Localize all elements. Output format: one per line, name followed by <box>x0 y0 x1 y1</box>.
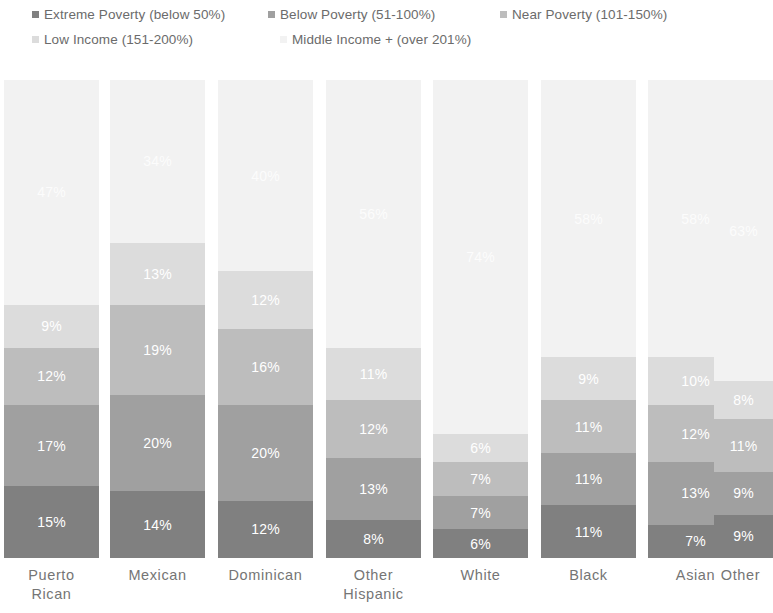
legend-item-below-poverty[interactable]: Below Poverty (51-100%) <box>268 8 435 22</box>
bar-segment-label: 56% <box>359 207 388 221</box>
x-axis-tick-label: Dominican <box>212 566 319 585</box>
bar-segment[interactable]: 20% <box>218 405 313 501</box>
bar-segment[interactable]: 11% <box>541 505 636 558</box>
legend-item-label: Extreme Poverty (below 50%) <box>44 8 225 22</box>
bar-other-hispanic: 56%11%12%13%8% <box>326 80 421 558</box>
bar-segment[interactable]: 12% <box>326 400 421 457</box>
x-axis-tick-line: Rican <box>0 585 103 604</box>
bar-segment[interactable]: 13% <box>110 243 205 305</box>
bar-segment[interactable]: 9% <box>714 472 773 515</box>
chart-legend: Extreme Poverty (below 50%) Below Povert… <box>0 0 773 62</box>
bar-segment[interactable]: 11% <box>714 419 773 472</box>
bar-segment-label: 20% <box>143 436 172 450</box>
bar-segment-label: 11% <box>730 439 758 453</box>
bar-segment-label: 6% <box>470 441 491 455</box>
bar-segment-label: 63% <box>729 224 758 238</box>
x-axis-tick-label: Other <box>708 566 773 585</box>
bar-segment[interactable]: 56% <box>326 80 421 348</box>
bar-segment-label: 7% <box>470 472 491 486</box>
x-axis-tick-line: Other <box>320 566 427 585</box>
bar-segment[interactable]: 47% <box>4 80 99 305</box>
bar-segment-label: 19% <box>143 343 172 357</box>
bar-segment[interactable]: 15% <box>4 486 99 558</box>
bar-segment[interactable]: 11% <box>541 453 636 506</box>
bar-segment-label: 9% <box>41 319 62 333</box>
x-axis: PuertoRicanMexicanDominicanOtherHispanic… <box>0 562 773 613</box>
bar-segment-label: 20% <box>251 446 280 460</box>
bar-segment[interactable]: 12% <box>218 271 313 328</box>
x-axis-tick-line: Hispanic <box>320 585 427 604</box>
x-axis-tick-label: OtherHispanic <box>320 566 427 604</box>
bar-segment-label: 47% <box>37 185 66 199</box>
bar-segment-label: 13% <box>681 486 710 500</box>
stacked-bar-chart: Extreme Poverty (below 50%) Below Povert… <box>0 0 773 613</box>
x-axis-tick-line: Mexican <box>104 566 211 585</box>
x-axis-tick-line: Dominican <box>212 566 319 585</box>
legend-swatch-icon <box>32 36 39 43</box>
bar-segment-label: 12% <box>681 427 710 441</box>
bar-segment-label: 58% <box>681 212 710 226</box>
bar-segment-label: 10% <box>681 374 710 388</box>
bar-white: 74%6%7%7%6% <box>433 80 528 558</box>
x-axis-tick-label: Mexican <box>104 566 211 585</box>
bar-segment[interactable]: 8% <box>714 381 773 419</box>
bar-segment[interactable]: 17% <box>4 405 99 486</box>
bar-segment[interactable]: 9% <box>541 357 636 400</box>
bar-segment-label: 11% <box>360 367 388 381</box>
bar-segment[interactable]: 20% <box>110 395 205 491</box>
bar-other: 63%8%11%9%9% <box>714 80 773 558</box>
bar-segment-label: 13% <box>143 267 172 281</box>
bar-segment-label: 12% <box>37 369 66 383</box>
bar-segment[interactable]: 40% <box>218 80 313 271</box>
bar-segment-label: 13% <box>359 482 388 496</box>
legend-swatch-icon <box>500 11 507 18</box>
bar-segment[interactable]: 63% <box>714 80 773 381</box>
bar-segment[interactable]: 14% <box>110 491 205 558</box>
bar-segment-label: 17% <box>37 439 66 453</box>
bar-segment-label: 11% <box>575 472 603 486</box>
legend-item-label: Low Income (151-200%) <box>44 33 193 47</box>
bar-mexican: 34%13%19%20%14% <box>110 80 205 558</box>
bar-black: 58%9%11%11%11% <box>541 80 636 558</box>
bar-segment-label: 7% <box>470 506 491 520</box>
bar-segment-label: 11% <box>575 420 603 434</box>
bar-segment-label: 15% <box>37 515 66 529</box>
bar-segment[interactable]: 7% <box>433 496 528 529</box>
bar-segment-label: 14% <box>143 518 172 532</box>
x-axis-tick-label: Black <box>535 566 642 585</box>
legend-item-label: Middle Income + (over 201%) <box>292 33 471 47</box>
bar-segment-label: 8% <box>363 532 384 546</box>
bar-segment[interactable]: 13% <box>326 458 421 520</box>
bar-segment[interactable]: 19% <box>110 305 205 396</box>
bar-segment-label: 12% <box>359 422 388 436</box>
bar-segment[interactable]: 58% <box>541 80 636 357</box>
legend-item-label: Near Poverty (101-150%) <box>512 8 667 22</box>
bar-segment[interactable]: 9% <box>4 305 99 348</box>
bar-segment[interactable]: 12% <box>4 348 99 405</box>
bar-segment-label: 74% <box>466 250 495 264</box>
bar-segment[interactable]: 34% <box>110 80 205 243</box>
legend-item-near-poverty[interactable]: Near Poverty (101-150%) <box>500 8 667 22</box>
bar-segment[interactable]: 16% <box>218 329 313 405</box>
bar-segment-label: 8% <box>733 393 754 407</box>
bar-segment[interactable]: 11% <box>541 400 636 453</box>
bar-segment[interactable]: 11% <box>326 348 421 401</box>
bar-segment-label: 34% <box>143 154 172 168</box>
bar-segment[interactable]: 9% <box>714 515 773 558</box>
bar-segment-label: 16% <box>251 360 280 374</box>
bar-puerto-rican: 47%9%12%17%15% <box>4 80 99 558</box>
bar-segment[interactable]: 8% <box>326 520 421 558</box>
legend-item-extreme-poverty[interactable]: Extreme Poverty (below 50%) <box>32 8 225 22</box>
bar-segment-label: 7% <box>685 534 706 548</box>
bar-segment[interactable]: 74% <box>433 80 528 434</box>
legend-swatch-icon <box>32 11 39 18</box>
bar-segment[interactable]: 7% <box>433 462 528 495</box>
legend-swatch-icon <box>280 36 287 43</box>
bar-segment[interactable]: 12% <box>218 501 313 558</box>
bar-segment[interactable]: 6% <box>433 529 528 558</box>
legend-item-low-income[interactable]: Low Income (151-200%) <box>32 33 193 47</box>
bar-dominican: 40%12%16%20%12% <box>218 80 313 558</box>
bar-segment-label: 40% <box>251 169 280 183</box>
legend-item-middle-income[interactable]: Middle Income + (over 201%) <box>280 33 471 47</box>
bar-segment[interactable]: 6% <box>433 434 528 463</box>
